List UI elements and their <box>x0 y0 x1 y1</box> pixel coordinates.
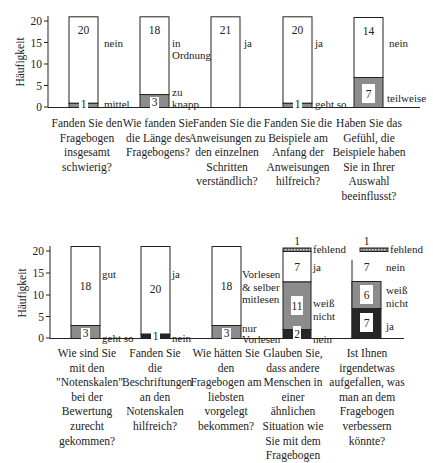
top-bar-1-small-label: mittel <box>104 98 130 110</box>
bottom-tick-5: 5 <box>38 311 44 323</box>
bottom-bar-3-small-label-2: Vorlesen <box>242 333 281 345</box>
top-tick-5: 5 <box>36 80 42 92</box>
bottom-y-label: Häufigkeit <box>16 268 29 318</box>
top-question-2: Wie fanden Sie die Länge des Fragebogens… <box>120 116 196 160</box>
top-bar-1-main-label: nein <box>104 37 123 49</box>
top-chart: 20 15 10 5 0 Häufigkeit 1 20 nein mittel… <box>14 15 426 113</box>
bottom-bar-4-weissnicht-value: 11 <box>291 300 302 312</box>
top-bar-5-main-label: nein <box>389 37 408 49</box>
top-bar-2-main-label-1: in <box>172 37 181 49</box>
bottom-bar-5-weissnicht-label-1: weiß <box>386 284 408 296</box>
bottom-bar-3: 3 18 Vorlesen & selber mitlesen nur Vorl… <box>212 247 281 346</box>
bottom-bar-3-small-value: 3 <box>224 327 230 339</box>
bottom-bar-2-main-value: 20 <box>150 283 162 295</box>
top-bar-1-small-value: 1 <box>81 98 87 110</box>
top-bar-4-main-label: ja <box>314 37 323 49</box>
top-bar-5: 7 14 nein teilweise <box>354 18 426 108</box>
bottom-bar-5-ja-label: ja <box>385 320 394 332</box>
top-bar-1-main-value: 20 <box>78 24 90 36</box>
bottom-tick-0: 0 <box>38 332 44 344</box>
bottom-bar-4: 1 7 11 2 fehlend ja weiß nicht nein <box>283 235 346 345</box>
top-tick-15: 15 <box>31 37 43 49</box>
bottom-bar-5-ja-value: 7 <box>364 317 370 329</box>
bottom-bar-5-nein-label: nein <box>386 261 405 273</box>
top-tick-20: 20 <box>31 15 43 27</box>
top-bar-4: 1 20 ja geht so <box>283 17 347 110</box>
bottom-bar-1-main-label: gut <box>102 268 116 280</box>
bottom-bar-3-main-label-2: & selber <box>242 281 280 293</box>
bottom-chart: 20 15 10 5 0 Häufigkeit 3 18 gut geht so… <box>16 235 423 345</box>
bottom-bar-4-fehlend-value: 1 <box>294 235 300 247</box>
top-bar-2-main-value: 18 <box>149 24 161 36</box>
top-question-5: Haben Sie das Gefühl, die Beispiele habe… <box>332 116 406 204</box>
bottom-bar-3-main-label-3: mitlesen <box>242 293 280 305</box>
bottom-bar-1-small-value: 3 <box>83 327 89 339</box>
top-bar-2-main-label-2: Ordnung <box>172 49 212 61</box>
bottom-bar-5: 1 7 6 7 fehlend nein weiß nicht ja <box>352 235 423 339</box>
top-bar-2-small-label-1: zu <box>172 86 183 98</box>
bottom-tick-15: 15 <box>33 267 45 279</box>
bottom-question-5: Ist Ihnen irgendetwas aufgefallen, was m… <box>329 346 405 448</box>
bottom-tick-10: 10 <box>33 289 45 301</box>
bottom-question-4: Glauben Sie, dass andere Menschen in ein… <box>262 346 324 463</box>
top-bar-4-main-value: 20 <box>292 24 304 36</box>
top-bar-5-small-value: 7 <box>366 88 372 100</box>
bottom-bar-5-fehlend-label: fehlend <box>390 243 423 255</box>
top-bar-5-small-label: teilweise <box>387 92 426 104</box>
top-bar-2-small-label-2: knapp <box>172 98 199 110</box>
bottom-question-1: Wie sind Sie mit den "Notenskalen" bei d… <box>56 346 118 448</box>
top-tick-10: 10 <box>31 58 43 70</box>
bottom-bar-2-small-label: nein <box>172 332 191 344</box>
top-bar-3-main-label: ja <box>243 37 252 49</box>
bottom-bar-1-small-label: geht so <box>102 332 134 344</box>
top-bar-4-small-label: geht so <box>315 98 347 110</box>
bottom-bar-5-fehlend-segment <box>360 248 388 252</box>
top-bar-2: 3 18 in Ordnung zu knapp <box>140 17 212 110</box>
top-question-3: Fanden Sie die Anweisungen zu den einzel… <box>186 116 268 189</box>
bottom-bar-4-ja-label: ja <box>312 261 321 273</box>
top-bar-3: 21 ja <box>211 17 252 108</box>
top-question-4: Fanden Sie die Beispiele am Anfang der A… <box>262 116 334 189</box>
bottom-bar-3-main-label-1: Vorlesen <box>242 268 281 280</box>
top-bar-4-small-value: 1 <box>295 98 301 110</box>
bottom-tick-20: 20 <box>33 245 45 257</box>
top-question-1: Fanden Sie den Fragebogen insgesamt schw… <box>48 116 126 174</box>
top-bar-2-small-value: 3 <box>152 96 158 108</box>
bottom-question-2: Fanden Sie die Beschriftungen an den Not… <box>122 346 188 434</box>
bottom-bar-2-small-value: 1 <box>153 330 159 342</box>
bottom-bar-4-weissnicht-label-1: weiß <box>313 297 335 309</box>
top-tick-0: 0 <box>36 101 42 113</box>
bottom-bar-5-nein-value: 7 <box>364 261 370 273</box>
bottom-bar-4-fehlend-segment <box>283 248 311 252</box>
bottom-bar-5-fehlend-value: 1 <box>364 235 370 247</box>
bottom-bar-4-fehlend-label: fehlend <box>313 243 346 255</box>
bottom-bar-4-nein-value: 2 <box>294 328 300 340</box>
bottom-bar-5-weissnicht-label-2: nicht <box>386 297 408 309</box>
bottom-bar-2-main-label: ja <box>171 268 180 280</box>
bottom-bar-1: 3 18 gut geht so <box>71 247 134 345</box>
top-bar-5-main-value: 14 <box>363 25 375 37</box>
bottom-bar-4-ja-value: 7 <box>294 261 300 273</box>
bottom-bar-2: 1 20 ja nein <box>141 247 191 345</box>
bottom-bar-3-main-value: 18 <box>221 280 233 292</box>
bottom-question-3: Wie hätten Sie den Fragebogen am liebste… <box>190 346 262 434</box>
bottom-bar-5-weissnicht-value: 6 <box>364 289 370 301</box>
bottom-bar-4-weissnicht-label-2: nicht <box>313 310 335 322</box>
top-y-label: Häufigkeit <box>14 37 27 87</box>
top-bar-3-main-value: 21 <box>220 24 232 36</box>
bottom-bar-1-main-value: 18 <box>80 280 92 292</box>
bottom-bar-4-nein-label: nein <box>313 333 332 345</box>
top-bar-1: 1 20 nein mittel <box>69 17 130 110</box>
